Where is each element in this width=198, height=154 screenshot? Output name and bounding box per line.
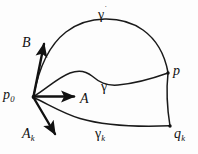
point-p0-dot bbox=[32, 95, 36, 99]
label-vector-A: A bbox=[80, 92, 89, 106]
label-qk-base: q bbox=[174, 126, 181, 141]
label-endpoint-qk: qk bbox=[174, 127, 185, 141]
label-endpoint-p: p bbox=[173, 64, 180, 78]
label-Ak-subscript: k bbox=[31, 133, 35, 143]
curve-side-edge bbox=[167, 73, 170, 126]
label-p0: p0 bbox=[3, 88, 14, 102]
label-Ak-base: A bbox=[22, 126, 31, 141]
label-qk-subscript: k bbox=[181, 133, 185, 143]
label-gamma-dot-mark: ˙ bbox=[104, 5, 107, 14]
curve-gamma-k bbox=[34, 98, 171, 127]
point-qk-dot bbox=[168, 124, 171, 127]
label-curve-gamma-dot: γ˙ bbox=[98, 8, 107, 22]
vector-B-arrow bbox=[34, 44, 45, 97]
figure-canvas: p0 B A Ak γ˙ γ γk p qk bbox=[0, 0, 198, 154]
label-gamma-k-subscript: k bbox=[101, 133, 105, 143]
label-vector-Ak: Ak bbox=[22, 127, 34, 141]
label-vector-B: B bbox=[22, 36, 31, 50]
point-p-dot bbox=[166, 71, 169, 74]
label-curve-gamma-k: γk bbox=[95, 127, 105, 141]
label-p0-subscript: 0 bbox=[10, 94, 14, 104]
label-p0-base: p bbox=[3, 87, 10, 102]
label-curve-gamma: γ bbox=[101, 80, 107, 94]
